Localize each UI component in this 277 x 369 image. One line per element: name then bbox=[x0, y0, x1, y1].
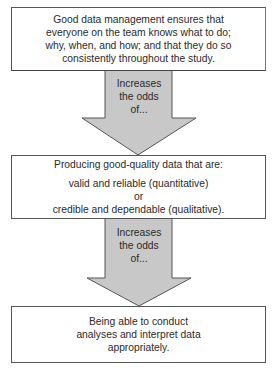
box-3-text-line: analyses and interpret data bbox=[76, 328, 200, 341]
arrow-2-label: Increases the odds of... bbox=[105, 226, 173, 265]
arrow-1-label-line: of... bbox=[105, 103, 173, 116]
box-2-heading: Producing good-quality data that are: bbox=[54, 158, 223, 171]
box-1-text-line: everyone on the team knows what to do; bbox=[46, 26, 231, 39]
box-1-text-line: why, when, and how; and that they do so bbox=[46, 39, 232, 52]
box-2-text-line: credible and dependable (qualitative). bbox=[53, 203, 225, 216]
arrow-1-label-line: the odds bbox=[105, 90, 173, 103]
arrow-2-label-line: Increases bbox=[105, 226, 173, 239]
arrow-2-label-line: of... bbox=[105, 252, 173, 265]
arrow-1-label: Increases the odds of... bbox=[105, 77, 173, 116]
box-analyses: Being able to conduct analyses and inter… bbox=[11, 306, 266, 363]
box-1-text-line: consistently throughout the study. bbox=[62, 52, 215, 65]
arrow-1-label-line: Increases bbox=[105, 77, 173, 90]
arrow-2-label-line: the odds bbox=[105, 239, 173, 252]
box-3-text-line: appropriately. bbox=[108, 341, 170, 354]
box-2-text-line: valid and reliable (quantitative) bbox=[69, 177, 209, 190]
box-3-text-line: Being able to conduct bbox=[89, 315, 188, 328]
box-2-text-line: or bbox=[134, 190, 143, 203]
box-1-text-line: Good data management ensures that bbox=[53, 13, 224, 26]
box-data-management: Good data management ensures that everyo… bbox=[11, 7, 266, 71]
box-good-quality-data: Producing good-quality data that are: va… bbox=[11, 155, 266, 219]
